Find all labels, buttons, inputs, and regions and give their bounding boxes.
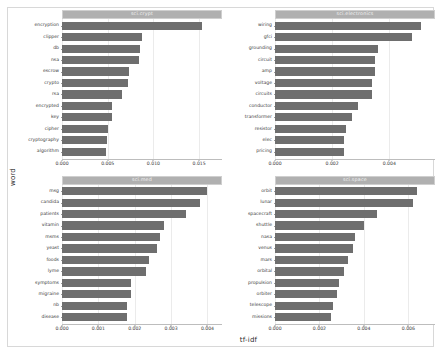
x-tick-label: 0.000 xyxy=(55,327,68,332)
bar xyxy=(275,256,348,264)
bar-row xyxy=(275,277,435,288)
x-axis: 0.0000.0020.004 xyxy=(275,159,435,169)
bar-row xyxy=(62,186,222,197)
y-tick-label: cryptography xyxy=(18,135,62,146)
facet-grid-wrapper: sci.cryptencryptionclipperdbnsaescrowcry… xyxy=(18,10,435,345)
bar xyxy=(62,233,160,241)
bar-row xyxy=(62,197,222,208)
y-tick-label: db xyxy=(18,43,62,54)
bar xyxy=(62,67,129,75)
bar-row xyxy=(275,254,435,265)
y-tick-label: migraine xyxy=(18,289,62,300)
y-tick-label: encryption xyxy=(18,20,62,31)
bar xyxy=(62,267,146,275)
y-tick-label: circuit xyxy=(231,54,275,65)
bar xyxy=(275,56,375,64)
x-tick-label: 0.005 xyxy=(101,162,114,167)
bar-row xyxy=(275,231,435,242)
bar-row xyxy=(275,220,435,231)
x-axis-label-text: tf-idf xyxy=(240,336,257,344)
facet-strip-text: sci.space xyxy=(343,178,367,183)
y-tick-label: rsa xyxy=(18,89,62,100)
bar xyxy=(62,279,131,287)
y-tick-labels: encryptionclipperdbnsaescrowcryptorsaenc… xyxy=(18,19,62,159)
bar-row xyxy=(275,89,435,100)
bar xyxy=(62,221,164,229)
bar xyxy=(275,22,421,30)
x-tick-label: 0.000 xyxy=(55,162,68,167)
y-tick-label: voltage xyxy=(231,77,275,88)
y-tick-label: resistor xyxy=(231,123,275,134)
x-tick-label: 0.004 xyxy=(383,162,396,167)
bar-row xyxy=(275,66,435,77)
bar xyxy=(275,102,358,110)
bar-row xyxy=(62,254,222,265)
x-tick-label: 0.001 xyxy=(92,327,105,332)
facet-panel-body: wiringgfcigroundingcircuitampvoltagecirc… xyxy=(231,19,435,159)
bar xyxy=(62,125,108,133)
y-tick-label: nasa xyxy=(231,231,275,242)
y-tick-label: orbital xyxy=(231,266,275,277)
facet-panel-body: encryptionclipperdbnsaescrowcryptorsaenc… xyxy=(18,19,222,159)
bar-row xyxy=(62,220,222,231)
bar-row xyxy=(275,243,435,254)
bar-row xyxy=(62,277,222,288)
y-tick-label: patients xyxy=(18,208,62,219)
x-tick-label: 0.003 xyxy=(165,327,178,332)
y-tick-label: telescope xyxy=(231,300,275,311)
bar-row xyxy=(62,66,222,77)
bar xyxy=(275,148,344,156)
bar-row xyxy=(275,311,435,322)
bar-row xyxy=(62,20,222,31)
bar-row xyxy=(62,243,222,254)
bar xyxy=(62,256,149,264)
y-tick-label: lyme xyxy=(18,266,62,277)
facet-panel-body: msgcandidapatientsvitaminmsmsyeastfoodsl… xyxy=(18,185,222,325)
y-tick-label: orbiter xyxy=(231,289,275,300)
bar-row xyxy=(275,77,435,88)
x-tick-label: 0.004 xyxy=(201,327,214,332)
bar-row xyxy=(62,231,222,242)
bar xyxy=(275,90,372,98)
bar xyxy=(62,302,127,310)
y-tick-label: circuits xyxy=(231,89,275,100)
plot-area: sci.cryptencryptionclipperdbnsaescrowcry… xyxy=(18,10,435,345)
bar xyxy=(62,33,142,41)
facet-plot-region xyxy=(62,185,222,325)
bar xyxy=(62,56,139,64)
bar xyxy=(275,79,372,87)
y-tick-label: shuttle xyxy=(231,220,275,231)
y-tick-label: encrypted xyxy=(18,100,62,111)
bar-row xyxy=(62,89,222,100)
bar-row xyxy=(275,135,435,146)
bar-row xyxy=(275,289,435,300)
bar-series xyxy=(62,19,222,159)
bar-series xyxy=(275,185,435,325)
bar-row xyxy=(62,112,222,123)
bar-row xyxy=(275,20,435,31)
bar xyxy=(275,302,333,310)
bar-row xyxy=(62,289,222,300)
bar xyxy=(275,125,346,133)
y-tick-label: candida xyxy=(18,197,62,208)
x-axis: 0.0000.0010.0020.0030.004 xyxy=(62,324,222,334)
bar xyxy=(62,102,112,110)
x-tick-label: 0.002 xyxy=(326,162,339,167)
bar xyxy=(62,79,128,87)
bar-row xyxy=(62,208,222,219)
y-tick-label: msms xyxy=(18,231,62,242)
bar-row xyxy=(275,54,435,65)
bar xyxy=(275,233,355,241)
bar xyxy=(275,210,377,218)
bar-row xyxy=(62,266,222,277)
bar xyxy=(62,90,122,98)
y-tick-label: vitamin xyxy=(18,220,62,231)
facet-strip-text: sci.med xyxy=(132,178,152,183)
facet-panel-sci-space: sci.spaceorbitlunarspacecraftshuttlenasa… xyxy=(231,176,435,335)
bar xyxy=(62,113,112,121)
bar xyxy=(275,67,375,75)
y-tick-label: cipher xyxy=(18,123,62,134)
facet-plot-region xyxy=(275,185,435,325)
x-axis: 0.0000.0050.0100.015 xyxy=(62,159,222,169)
bar xyxy=(275,244,353,252)
